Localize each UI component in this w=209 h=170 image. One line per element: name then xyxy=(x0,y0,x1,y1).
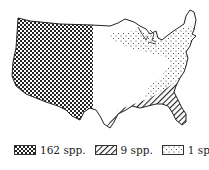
legend-label: 9 spp. xyxy=(121,144,153,156)
crosshatch-swatch-icon xyxy=(14,145,36,155)
legend-item-stipple: 1 spp. xyxy=(162,144,209,156)
legend-item-diagonal: 9 spp. xyxy=(95,144,153,156)
legend-label: 162 spp. xyxy=(40,144,86,156)
us-range-map xyxy=(0,0,209,135)
diagonal-swatch-icon xyxy=(95,145,117,155)
stipple-swatch-icon xyxy=(162,145,184,155)
legend: 162 spp. 9 spp. 1 spp. xyxy=(14,144,209,156)
legend-label: 1 spp. xyxy=(188,144,209,156)
legend-item-crosshatch: 162 spp. xyxy=(14,144,86,156)
region-west-crosshatch xyxy=(0,0,93,135)
